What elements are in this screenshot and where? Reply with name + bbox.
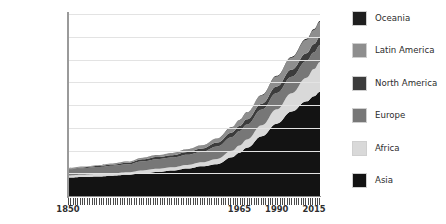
x-axis-tick	[195, 198, 196, 205]
x-axis-tick	[80, 198, 81, 205]
x-axis-tick	[146, 198, 147, 205]
x-axis-tick	[209, 198, 210, 205]
x-axis-tick	[82, 198, 83, 205]
x-axis-tick	[181, 198, 182, 205]
x-axis-tick	[178, 198, 179, 205]
legend-swatch	[352, 76, 367, 91]
gridline	[68, 82, 320, 83]
x-axis-tick	[298, 198, 299, 205]
x-axis-tick	[110, 198, 111, 205]
legend-item-europe[interactable]: Europe	[352, 108, 405, 124]
x-axis-tick	[139, 198, 140, 205]
gridline	[68, 173, 320, 174]
x-axis-tick	[157, 198, 158, 205]
x-axis-tick	[103, 198, 104, 205]
x-axis-tick	[117, 198, 118, 205]
legend-item-asia[interactable]: Asia	[352, 173, 393, 189]
x-axis-tick	[251, 198, 252, 205]
x-axis-tick	[120, 198, 121, 205]
x-axis-tick	[207, 198, 208, 205]
x-axis-tick-label: 1965	[228, 205, 251, 213]
legend-label: North America	[375, 79, 437, 88]
x-axis-tick	[216, 198, 217, 205]
x-axis-tick	[96, 198, 97, 205]
x-axis-tick-label: 1850	[56, 205, 79, 213]
plot-wrapper: 8,000,000,0007,000,000,0006,000,000,0005…	[0, 0, 336, 224]
x-axis-tick	[214, 198, 215, 205]
gridline	[68, 151, 320, 152]
x-axis-tick	[218, 198, 219, 205]
x-axis-tick-label: 2015	[302, 205, 325, 213]
gridline	[68, 105, 320, 106]
legend-label: Oceania	[375, 14, 410, 23]
legend-swatch	[352, 43, 367, 58]
x-axis-tick	[160, 198, 161, 205]
legend-item-north-america[interactable]: North America	[352, 75, 437, 91]
x-axis-tick	[211, 198, 212, 205]
x-axis-tick	[150, 198, 151, 205]
gridline	[68, 60, 320, 61]
gridline	[68, 37, 320, 38]
legend-swatch	[352, 11, 367, 26]
x-axis-tick	[108, 198, 109, 205]
x-axis-tick	[92, 198, 93, 205]
legend-swatch	[352, 141, 367, 156]
legend-label: Latin America	[375, 46, 434, 55]
x-axis-tick	[200, 198, 201, 205]
x-axis-tick	[254, 198, 255, 205]
x-axis-tick	[99, 198, 100, 205]
x-axis-tick	[296, 198, 297, 205]
legend-label: Africa	[375, 144, 400, 153]
x-axis-tick	[183, 198, 184, 205]
x-axis-tick	[143, 198, 144, 205]
x-axis-tick	[155, 198, 156, 205]
legend-item-africa[interactable]: Africa	[352, 140, 400, 156]
x-axis-tick	[169, 198, 170, 205]
x-axis-tick	[174, 198, 175, 205]
x-axis-tick	[261, 198, 262, 205]
x-axis-tick	[101, 198, 102, 205]
x-axis-tick	[221, 198, 222, 205]
x-axis-tick	[176, 198, 177, 205]
x-axis-tick	[294, 198, 295, 205]
x-axis-tick	[258, 198, 259, 205]
y-axis-line	[67, 12, 69, 198]
x-axis-tick	[167, 198, 168, 205]
x-axis-tick	[94, 198, 95, 205]
x-axis-tick	[164, 198, 165, 205]
x-axis-tick	[153, 198, 154, 205]
x-axis-tick	[122, 198, 123, 205]
x-axis-tick	[134, 198, 135, 205]
x-axis-tick	[186, 198, 187, 205]
legend-label: Europe	[375, 111, 405, 120]
population-area-chart: 8,000,000,0007,000,000,0006,000,000,0005…	[0, 0, 446, 224]
x-axis-tick	[225, 198, 226, 205]
x-axis-tick	[263, 198, 264, 205]
legend-item-latin-america[interactable]: Latin America	[352, 43, 434, 59]
x-axis-tick	[89, 198, 90, 205]
gridline	[68, 128, 320, 129]
legend-item-oceania[interactable]: Oceania	[352, 10, 410, 26]
x-axis-tick	[141, 198, 142, 205]
x-axis-tick	[204, 198, 205, 205]
legend-label: Asia	[375, 176, 393, 185]
x-axis-tick	[148, 198, 149, 205]
x-axis-tick	[162, 198, 163, 205]
x-axis-tick	[289, 198, 290, 205]
x-axis-tick	[106, 198, 107, 205]
x-axis-tick	[188, 198, 189, 205]
x-axis-tick	[202, 198, 203, 205]
x-axis-tick-label: 1990	[265, 205, 288, 213]
x-axis-tick	[84, 198, 85, 205]
x-axis-tick	[197, 198, 198, 205]
legend-swatch	[352, 108, 367, 123]
plot-area	[68, 14, 320, 196]
x-axis-tick	[223, 198, 224, 205]
x-axis-tick	[113, 198, 114, 205]
x-axis-tick	[87, 198, 88, 205]
x-axis-tick	[136, 198, 137, 205]
x-axis-tick	[124, 198, 125, 205]
x-axis-tick	[193, 198, 194, 205]
x-axis-tick	[115, 198, 116, 205]
gridline	[68, 14, 320, 15]
